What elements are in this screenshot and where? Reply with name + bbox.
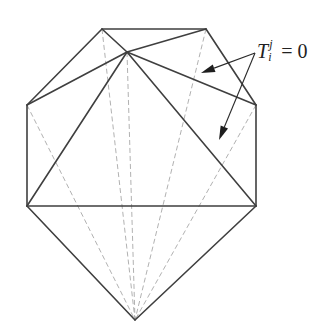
arrow-shaft-1 <box>214 53 255 68</box>
label-symbol: T <box>257 40 268 62</box>
edge-top_left-apex <box>102 29 127 52</box>
annotation-arrows <box>201 53 255 140</box>
hidden-edge-top_right-bottom <box>135 29 206 320</box>
edge-top_right-apex <box>127 29 206 52</box>
degenerate-tetrahedron-label: Tji = 0 <box>257 41 307 61</box>
edge-top_left-left_upper <box>27 29 102 105</box>
dashed-hidden-edges <box>27 29 256 320</box>
edge-apex-left_lower <box>27 52 127 206</box>
edge-apex-left_upper <box>27 52 127 105</box>
arrowhead-icon <box>219 126 228 140</box>
arrowhead-icon <box>201 64 216 73</box>
hidden-edge-apex-bottom <box>127 52 135 320</box>
solid-visible-edges <box>27 29 256 320</box>
label-indices: ji <box>268 41 276 61</box>
hidden-edge-top_left-bottom <box>102 29 135 320</box>
label-superscript: j <box>269 38 272 50</box>
hidden-edge-left_upper-bottom <box>27 105 135 320</box>
hidden-edge-right_upper-bottom <box>135 105 256 320</box>
label-relation: = 0 <box>281 40 307 62</box>
label-subscript: i <box>268 51 271 63</box>
edge-right_lower-bottom <box>135 206 256 320</box>
edge-left_lower-bottom <box>27 206 135 320</box>
